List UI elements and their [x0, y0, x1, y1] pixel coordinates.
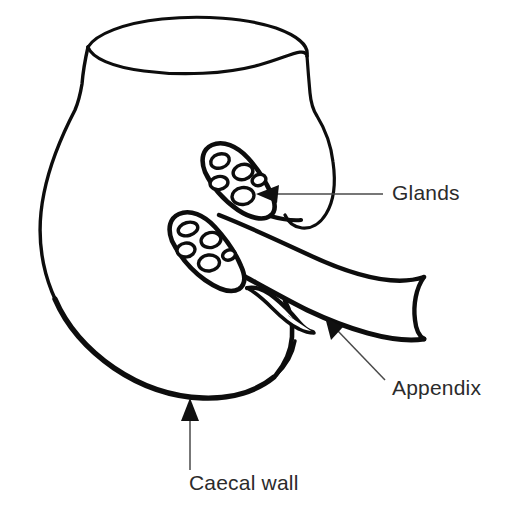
lower-gland-cell-3 [176, 242, 196, 258]
label-glands: Glands [392, 181, 460, 204]
upper-gland-cell-3 [209, 175, 229, 191]
label-appendix: Appendix [392, 376, 481, 399]
diagram-root: Glands Appendix Caecal wall [0, 0, 509, 516]
lower-gland-cell-4 [198, 254, 221, 272]
caecum-appendix-diagram: Glands Appendix Caecal wall [0, 0, 509, 516]
label-caecal-wall: Caecal wall [189, 471, 299, 494]
upper-gland-cell-4 [231, 186, 255, 206]
